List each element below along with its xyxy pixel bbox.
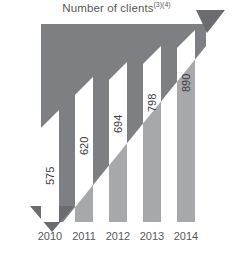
bar-2014-value: 890 [180,74,192,92]
chart-plot-area: 575 620 [0,0,233,253]
bar-2012-value: 694 [112,115,124,133]
x-axis-label-2011: 2011 [72,230,96,242]
x-axis-label-2013: 2013 [140,230,164,242]
x-axis-label-2014: 2014 [174,230,198,242]
arrow-graphic [30,10,225,232]
bar-2010-value: 575 [44,167,56,185]
x-axis-label-2012: 2012 [106,230,130,242]
bar-2013-value: 798 [146,94,158,112]
chart-container: Number of clients(3)(4) 575 [0,0,233,253]
bar-2011-value: 620 [78,137,90,155]
x-axis-label-2010: 2010 [38,230,62,242]
x-axis-labels: 2010 2011 2012 2013 2014 [38,230,198,242]
